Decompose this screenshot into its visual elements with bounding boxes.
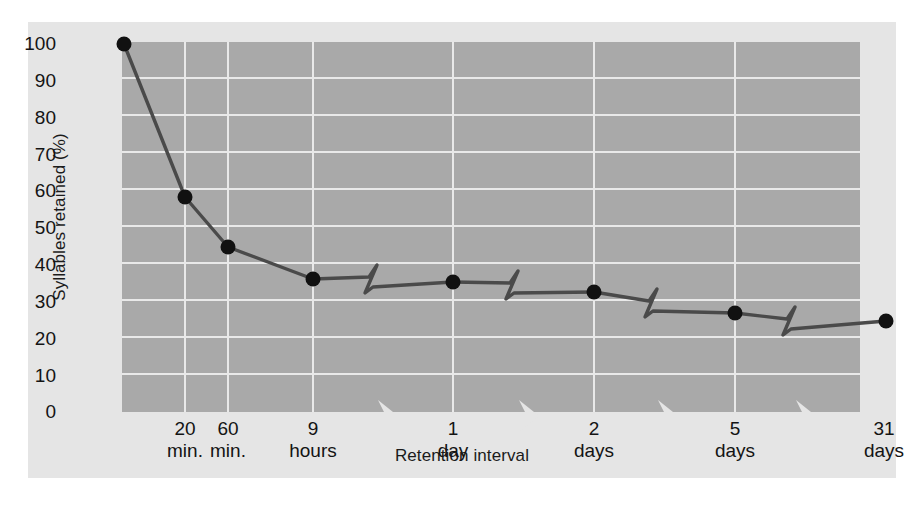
y-tick-70: 70: [0, 144, 56, 166]
data-point-immediate: [117, 37, 132, 52]
y-tick-80: 80: [0, 107, 56, 129]
y-tick-50: 50: [0, 217, 56, 239]
curve-segment-3-with-break: [453, 271, 594, 299]
figure-container: Syllables retained (%) Retention interva…: [28, 22, 896, 478]
y-tick-0: 0: [0, 401, 56, 423]
x-tick-2-days-unit: days: [539, 440, 649, 462]
data-point-1-day: [446, 275, 461, 290]
x-tick-9-hours: 9 hours: [258, 418, 368, 462]
axis-break-notch-3: [644, 400, 678, 432]
x-tick-5-days-unit: days: [680, 440, 790, 462]
x-tick-9-hours-unit: hours: [258, 440, 368, 462]
x-tick-31-days-value: 31: [873, 418, 894, 439]
y-tick-10: 10: [0, 365, 56, 387]
data-point-5-days: [728, 306, 743, 321]
x-tick-31-days-unit: days: [829, 440, 924, 462]
plot-area: [122, 42, 860, 412]
curve-segment-2-with-break: [313, 265, 453, 293]
x-tick-5-days: 5 days: [680, 418, 790, 462]
y-tick-40: 40: [0, 254, 56, 276]
axis-break-notch-1: [364, 400, 398, 432]
x-tick-1-day-unit: day: [398, 440, 508, 462]
x-tick-31-days: 31 days: [829, 418, 924, 462]
x-tick-1-day: 1 day: [398, 418, 508, 462]
data-point-31-days: [879, 314, 894, 329]
curve-segment-5-with-break: [735, 307, 886, 335]
data-point-20-min: [178, 190, 193, 205]
x-tick-2-days: 2 days: [539, 418, 649, 462]
y-tick-20: 20: [0, 328, 56, 350]
data-point-9-hours: [306, 272, 321, 287]
y-tick-100: 100: [0, 33, 56, 55]
curve-segment-1: [124, 44, 313, 279]
axis-break-notch-2: [505, 400, 539, 432]
data-point-60-min: [221, 240, 236, 255]
y-tick-60: 60: [0, 180, 56, 202]
curve-segment-4-with-break: [594, 289, 735, 317]
data-point-2-days: [587, 285, 602, 300]
x-axis-break-notches: [122, 398, 860, 424]
forgetting-curve-series: [122, 42, 860, 412]
y-tick-30: 30: [0, 291, 56, 313]
y-tick-90: 90: [0, 70, 56, 92]
